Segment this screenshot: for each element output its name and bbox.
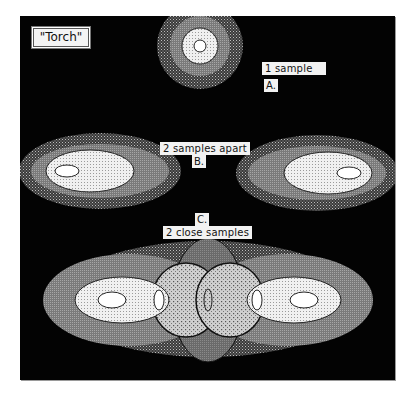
- figure-canvas: "Torch" 1 sample A. 2 samples apart B. C…: [20, 16, 395, 380]
- panel-a-caption: 1 sample: [262, 62, 326, 75]
- panel-c-letter: C.: [195, 213, 209, 226]
- panel-b-caption: 2 samples apart: [160, 142, 250, 155]
- panel-a-single-sample: [157, 16, 243, 89]
- figure-title: "Torch": [31, 26, 91, 49]
- panel-b-letter: B.: [192, 155, 206, 168]
- panel-a-letter: A.: [264, 79, 278, 92]
- panel-c-caption: 2 close samples: [163, 226, 252, 239]
- torch-falloff-diagram: [20, 16, 395, 380]
- panel-c-close-samples: [43, 238, 373, 362]
